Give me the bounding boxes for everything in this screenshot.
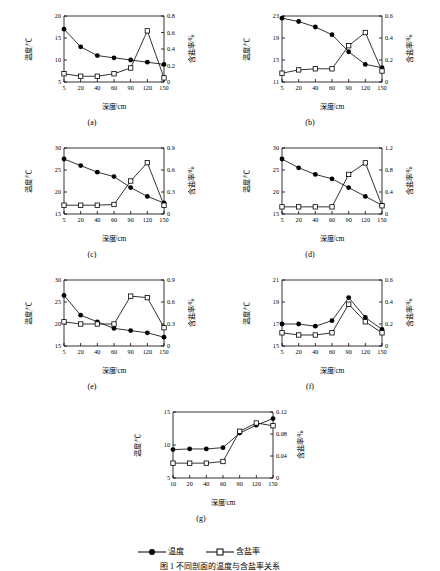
chart-panel-c: 1520253000.30.60.9520406090120150深度/cm温度… [22,140,200,244]
right-axis-label: 含盐率/% [187,166,196,195]
temperature-point [62,293,67,298]
temperature-point [62,27,67,32]
salinity-point [237,429,241,433]
x-tick-label: 40 [312,84,318,91]
salinity-point [187,461,191,465]
left-tick-label: 11 [273,78,279,85]
temperature-point [363,62,368,67]
salinity-point [112,72,116,76]
right-axis-label: 含盐率/% [187,298,196,327]
temperature-point [128,328,133,333]
x-tick-label: 90 [346,84,352,91]
temperature-point [112,326,117,331]
temperature-point [145,194,150,199]
temperature-point [112,174,117,179]
right-tick-label: 0.3 [167,320,175,327]
x-tick-label: 5 [62,216,65,223]
right-tick-label: 0.4 [385,298,393,305]
salinity-point [162,325,166,329]
left-tick-label: 15 [164,408,170,415]
x-tick-label: 60 [220,480,226,487]
panel-caption: (e) [62,382,122,391]
salinity-point [346,302,350,306]
temperature-point [128,185,133,190]
x-tick-label: 90 [128,348,134,355]
salinity-point [204,461,208,465]
x-tick-label: 150 [377,216,386,223]
salinity-point [254,421,258,425]
right-tick-label: 0.9 [167,276,175,283]
x-tick-label: 60 [111,216,117,223]
x-tick-label: 150 [268,480,277,487]
x-tick-label: 150 [377,348,386,355]
right-tick-label: 0.6 [385,276,393,283]
salinity-point [95,322,99,326]
temperature-point [313,25,318,30]
x-tick-label: 40 [94,348,100,355]
left-tick-label: 10 [164,441,170,448]
salinity-point [128,179,132,183]
x-tick-label: 120 [361,84,370,91]
x-tick-label: 40 [203,480,209,487]
salinity-point [330,331,334,335]
x-tick-label: 20 [296,348,302,355]
x-tick-label: 60 [111,84,117,91]
salinity-point [363,161,367,165]
temperature-point [162,335,167,340]
temperature-point [330,176,335,181]
legend-item-temperature [138,549,166,555]
left-tick-label: 15 [273,56,279,63]
salinity-point [128,66,132,70]
right-tick-label: 0.6 [167,29,175,36]
left-axis-label: 温度/℃ [242,302,251,325]
chart-panel-e: 1520253000.30.60.9520406090120150深度/cm温度… [22,272,200,376]
left-tick-label: 15 [55,342,61,349]
x-tick-label: 120 [143,348,152,355]
x-tick-label: 90 [346,216,352,223]
chart-svg: 1517192100.20.40.6520406090120150深度/cm温度… [240,272,418,376]
chart-panel-d: 1520253000.40.81.2520406090120150深度/cm温度… [240,140,418,244]
x-tick-label: 90 [346,348,352,355]
x-tick-label: 90 [128,84,134,91]
temperature-point [145,60,150,65]
x-tick-label: 40 [312,216,318,223]
left-axis-label: 温度/℃ [242,170,251,193]
salinity-point [271,424,275,428]
salinity-point [280,331,284,335]
salinity-line [173,423,273,463]
left-tick-label: 20 [273,188,279,195]
x-tick-label: 150 [159,84,168,91]
temperature-point [221,445,226,450]
x-tick-label: 5 [280,216,283,223]
x-tick-label: 120 [143,84,152,91]
salinity-point [380,331,384,335]
salinity-line [64,31,164,78]
salinity-point [380,69,384,73]
salinity-point [162,203,166,207]
left-tick-label: 15 [55,34,61,41]
left-axis-label: 温度/℃ [133,434,142,457]
left-tick-label: 25 [55,298,61,305]
x-tick-label: 120 [143,216,152,223]
temperature-point [363,315,368,320]
temperature-point [78,163,83,168]
temperature-point [363,194,368,199]
left-tick-label: 5 [58,78,61,85]
panel-caption: (b) [280,118,340,127]
right-tick-label: 0.12 [276,408,287,415]
salinity-point [145,295,149,299]
panel-caption: (a) [62,118,122,127]
legend-label-temperature: 温度 [168,545,184,556]
salinity-point [95,203,99,207]
x-axis-label: 深度/cm [320,366,345,375]
panel-caption: (d) [280,250,340,259]
x-tick-label: 40 [94,216,100,223]
right-tick-label: 0.6 [385,12,393,19]
salinity-point [280,71,284,75]
temperature-point [330,318,335,323]
left-tick-label: 19 [273,34,279,41]
right-axis-label: 含盐率/% [296,430,305,459]
temperature-point [162,62,167,67]
right-axis-label: 含盐率/% [405,34,414,63]
left-tick-label: 15 [273,210,279,217]
